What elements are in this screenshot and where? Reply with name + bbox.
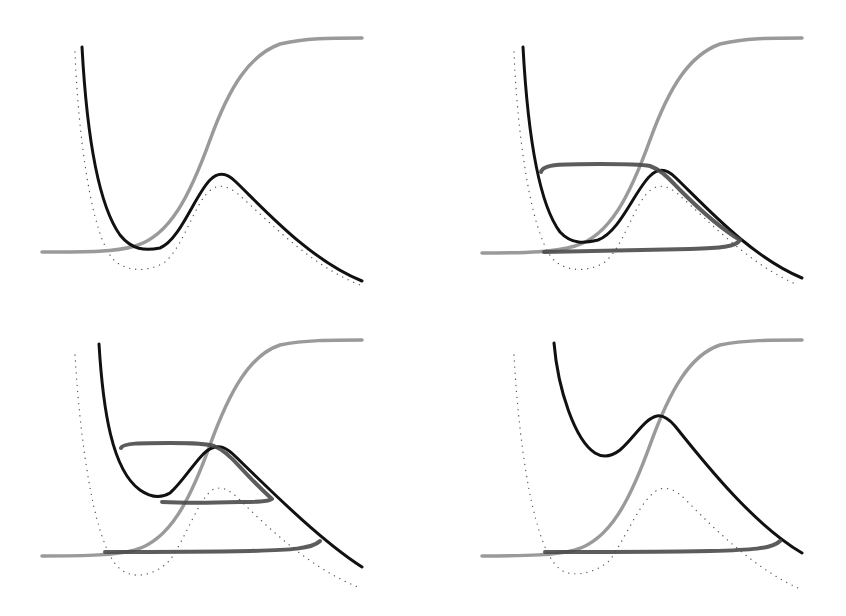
sigmoid-curve: [42, 340, 362, 556]
panel-top-right: [482, 38, 802, 285]
panel-bottom-left: [42, 340, 362, 587]
diagram-svg: [0, 0, 846, 616]
panel-top-left: [42, 38, 362, 285]
sigmoid-curve: [482, 340, 802, 556]
sigmoid-curve: [42, 38, 362, 252]
potential-curve: [82, 47, 362, 281]
panels-group: [42, 38, 802, 588]
sigmoid-curve: [482, 38, 802, 253]
hysteresis-loop-2: [105, 541, 320, 552]
potential-curve: [554, 343, 802, 553]
panel-bottom-right: [482, 340, 802, 588]
figure-canvas: [0, 0, 846, 616]
